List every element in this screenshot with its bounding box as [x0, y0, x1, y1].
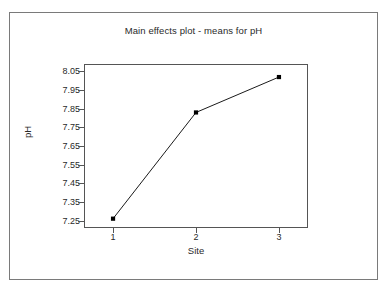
y-axis-tick-mark	[78, 109, 84, 110]
series-line-plot	[84, 64, 308, 228]
series-line-means-for-ph	[113, 77, 279, 219]
series-markers	[111, 75, 281, 221]
y-axis-tick-mark	[78, 165, 84, 166]
y-axis-tick-mark	[78, 202, 84, 203]
y-axis-tick-labels: 7.257.357.457.557.657.757.857.958.05	[44, 0, 80, 292]
y-axis-tick-mark	[78, 221, 84, 222]
y-axis-title: pH	[22, 126, 33, 138]
y-axis-tick-mark	[78, 71, 84, 72]
data-point-marker	[111, 217, 115, 221]
y-axis-tick-mark	[78, 146, 84, 147]
x-axis-tick-mark	[196, 228, 197, 233]
x-axis-tick-mark	[113, 228, 114, 233]
x-axis-title: Site	[84, 245, 308, 256]
x-axis-tick-labels: 123	[0, 232, 390, 246]
y-axis-tick-mark	[78, 183, 84, 184]
y-axis-tick-mark	[78, 127, 84, 128]
x-axis-tick-label: 3	[276, 232, 281, 242]
x-axis-tick-mark	[279, 228, 280, 233]
y-axis-tick-mark	[78, 90, 84, 91]
data-point-marker	[194, 110, 198, 114]
x-axis-tick-label: 1	[111, 232, 116, 242]
x-axis-tick-label: 2	[193, 232, 198, 242]
data-point-marker	[277, 75, 281, 79]
chart-figure: Main effects plot - means for pH 7.257.3…	[0, 0, 390, 292]
